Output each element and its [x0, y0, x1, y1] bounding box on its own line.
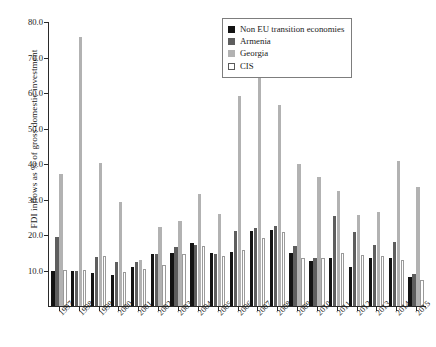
- legend-swatch-icon: [228, 38, 235, 45]
- legend-swatch-icon: [228, 63, 235, 70]
- bar: [210, 253, 213, 306]
- bar: [278, 105, 281, 306]
- legend-item[interactable]: Armenia: [228, 35, 344, 47]
- bar: [373, 245, 376, 306]
- y-tick-mark: [44, 93, 48, 94]
- legend-item[interactable]: Non EU transition economies: [228, 23, 344, 35]
- bar: [317, 177, 320, 306]
- bar: [79, 37, 82, 306]
- bar: [194, 245, 197, 306]
- bar: [274, 226, 277, 306]
- bar: [254, 228, 257, 306]
- bar: [182, 254, 185, 306]
- y-tick-label: 50.0: [28, 125, 43, 133]
- bar-group: [49, 22, 69, 306]
- bar: [119, 202, 122, 306]
- bar: [309, 261, 312, 306]
- bar: [297, 164, 300, 306]
- bar-group: [128, 22, 148, 306]
- y-tick-mark: [44, 200, 48, 201]
- bar: [341, 253, 344, 306]
- bar: [321, 258, 324, 306]
- legend-item[interactable]: CIS: [228, 60, 344, 72]
- x-axis-labels: 1997199819992000200120022003200420052006…: [49, 311, 426, 347]
- legend-label: CIS: [240, 62, 254, 71]
- bar: [103, 256, 106, 306]
- bar: [202, 246, 205, 306]
- bar-group: [168, 22, 188, 306]
- bar: [262, 238, 265, 306]
- y-tick-mark: [44, 235, 48, 236]
- bar: [250, 231, 253, 306]
- bar: [333, 216, 336, 306]
- legend-swatch-icon: [228, 50, 235, 57]
- bar: [190, 243, 193, 306]
- legend-item[interactable]: Georgia: [228, 48, 344, 60]
- bar: [349, 267, 352, 306]
- y-tick-mark: [44, 271, 48, 272]
- bar-group: [367, 22, 387, 306]
- bar: [293, 246, 296, 306]
- y-tick-label: 70.0: [28, 54, 43, 62]
- bar: [51, 271, 54, 307]
- bar: [313, 258, 316, 306]
- bar: [361, 255, 364, 306]
- bar: [301, 258, 304, 306]
- bar: [289, 253, 292, 306]
- bar: [174, 247, 177, 306]
- bar: [369, 258, 372, 306]
- bar: [139, 260, 142, 306]
- bar: [282, 232, 285, 306]
- bar: [381, 256, 384, 306]
- bar-group: [69, 22, 89, 306]
- bar: [135, 262, 138, 306]
- bar: [71, 271, 74, 306]
- bar: [198, 194, 201, 306]
- bar-group: [148, 22, 168, 306]
- bar: [151, 254, 154, 306]
- bar: [115, 262, 118, 306]
- bar-group: [188, 22, 208, 306]
- chart-legend: Non EU transition economiesArmeniaGeorgi…: [222, 18, 352, 78]
- bar: [389, 258, 392, 306]
- y-tick-label: 80.0: [28, 18, 43, 26]
- legend-swatch-icon: [228, 26, 235, 33]
- bar: [270, 230, 273, 306]
- legend-label: Non EU transition economies: [240, 25, 344, 34]
- bar-group: [386, 22, 406, 306]
- bar: [178, 221, 181, 306]
- bar: [214, 254, 217, 306]
- bar: [329, 258, 332, 306]
- y-tick-label: 20.0: [28, 231, 43, 239]
- y-tick-label: 10.0: [28, 267, 43, 275]
- bar: [357, 215, 360, 306]
- bar: [401, 260, 404, 307]
- bar: [218, 214, 221, 306]
- bar-group: [89, 22, 109, 306]
- y-tick-mark: [44, 22, 48, 23]
- bar: [155, 254, 158, 306]
- bar: [158, 227, 161, 306]
- bar: [412, 274, 415, 306]
- y-tick-mark: [44, 58, 48, 59]
- legend-label: Armenia: [240, 37, 271, 46]
- bar: [337, 191, 340, 306]
- y-tick-label: 40.0: [28, 160, 43, 168]
- bar: [59, 174, 62, 306]
- bar: [95, 257, 98, 306]
- bar: [353, 232, 356, 306]
- chart-figure: FDI inflows as % of gross domestic inves…: [0, 0, 436, 347]
- bar-group: [406, 22, 426, 306]
- bar: [397, 161, 400, 306]
- bar: [55, 237, 58, 306]
- bar: [230, 252, 233, 306]
- bar: [170, 253, 173, 306]
- y-tick-label: 60.0: [28, 89, 43, 97]
- y-tick-mark: [44, 129, 48, 130]
- legend-label: Georgia: [240, 49, 268, 58]
- bar: [99, 163, 102, 306]
- bar: [258, 69, 261, 307]
- bar-group: [109, 22, 129, 306]
- bar: [222, 256, 225, 306]
- y-tick-label: 30.0: [28, 196, 43, 204]
